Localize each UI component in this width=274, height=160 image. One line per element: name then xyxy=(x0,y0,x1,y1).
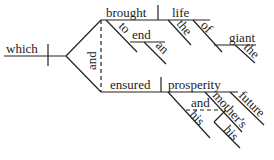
sentence-diagram: which and brought life to end an the of … xyxy=(0,0,274,160)
subject-word: which xyxy=(6,41,38,56)
word-end: end xyxy=(132,27,151,42)
his-connector xyxy=(214,110,226,122)
modifier-and: and xyxy=(191,95,210,110)
verb-ensured: ensured xyxy=(110,77,151,92)
object-prosperity: prosperity xyxy=(168,77,221,92)
fork-upper xyxy=(66,20,101,56)
conjunction-and: and xyxy=(84,51,99,70)
